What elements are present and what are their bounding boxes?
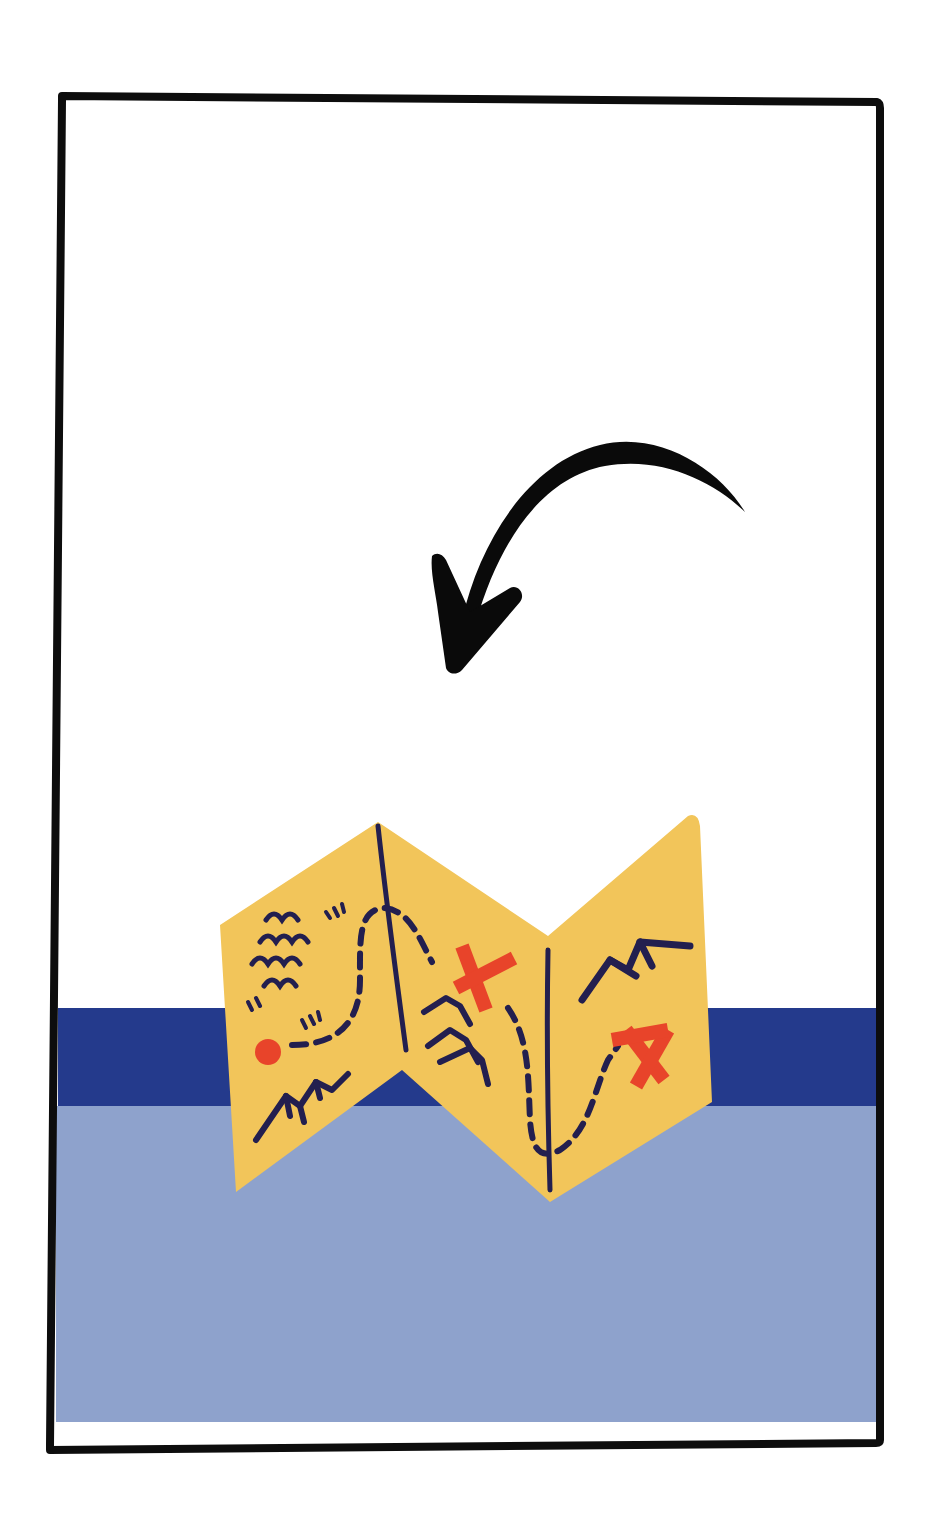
illustration-canvas: folded treasure map [0,0,934,1517]
arrow-head [432,554,522,674]
light-blue-band [56,1106,878,1422]
start-dot-icon [255,1039,281,1065]
scene [0,0,934,1517]
curved-arrow-icon [432,442,745,674]
